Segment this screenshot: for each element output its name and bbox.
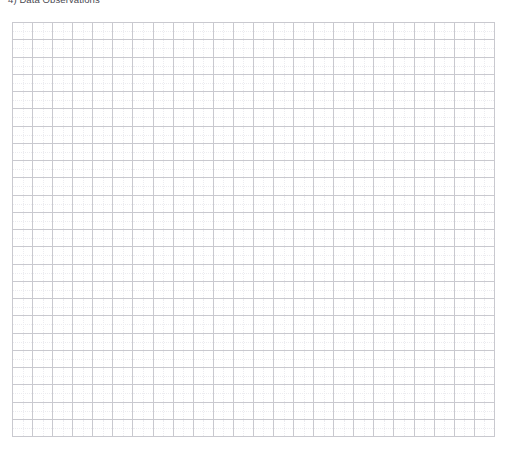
- grid-cell[interactable]: [354, 247, 374, 264]
- grid-cell[interactable]: [314, 40, 334, 57]
- grid-cell[interactable]: [434, 350, 454, 367]
- grid-cell[interactable]: [73, 281, 93, 298]
- grid-cell[interactable]: [474, 247, 494, 264]
- grid-cell[interactable]: [374, 230, 394, 247]
- grid-cell[interactable]: [53, 264, 73, 281]
- grid-cell[interactable]: [374, 316, 394, 333]
- grid-cell[interactable]: [474, 281, 494, 298]
- grid-cell[interactable]: [374, 57, 394, 74]
- grid-cell[interactable]: [454, 402, 474, 419]
- grid-cell[interactable]: [173, 178, 193, 195]
- grid-cell[interactable]: [73, 299, 93, 316]
- grid-cell[interactable]: [233, 57, 253, 74]
- grid-cell[interactable]: [193, 368, 213, 385]
- grid-cell[interactable]: [414, 368, 434, 385]
- grid-cell[interactable]: [213, 299, 233, 316]
- grid-cell[interactable]: [33, 195, 53, 212]
- grid-cell[interactable]: [414, 247, 434, 264]
- grid-cell[interactable]: [173, 126, 193, 143]
- grid-cell[interactable]: [233, 23, 253, 40]
- grid-cell[interactable]: [274, 195, 294, 212]
- grid-cell[interactable]: [173, 385, 193, 402]
- grid-cell[interactable]: [434, 212, 454, 229]
- grid-cell[interactable]: [354, 281, 374, 298]
- grid-cell[interactable]: [294, 230, 314, 247]
- grid-cell[interactable]: [374, 23, 394, 40]
- grid-cell[interactable]: [454, 333, 474, 350]
- grid-cell[interactable]: [13, 195, 33, 212]
- grid-cell[interactable]: [474, 333, 494, 350]
- grid-cell[interactable]: [434, 230, 454, 247]
- grid-cell[interactable]: [73, 23, 93, 40]
- grid-cell[interactable]: [334, 143, 354, 160]
- grid-cell[interactable]: [394, 368, 414, 385]
- grid-cell[interactable]: [233, 264, 253, 281]
- grid-cell[interactable]: [53, 299, 73, 316]
- grid-cell[interactable]: [354, 402, 374, 419]
- grid-cell[interactable]: [93, 23, 113, 40]
- grid-cell[interactable]: [354, 385, 374, 402]
- grid-cell[interactable]: [113, 40, 133, 57]
- grid-cell[interactable]: [414, 316, 434, 333]
- grid-cell[interactable]: [394, 126, 414, 143]
- grid-cell[interactable]: [73, 316, 93, 333]
- grid-cell[interactable]: [193, 178, 213, 195]
- grid-cell[interactable]: [233, 385, 253, 402]
- grid-cell[interactable]: [394, 281, 414, 298]
- grid-cell[interactable]: [394, 178, 414, 195]
- grid-cell[interactable]: [454, 247, 474, 264]
- grid-cell[interactable]: [113, 109, 133, 126]
- grid-cell[interactable]: [13, 419, 33, 436]
- grid-cell[interactable]: [93, 419, 113, 436]
- grid-cell[interactable]: [193, 385, 213, 402]
- grid-cell[interactable]: [53, 368, 73, 385]
- grid-cell[interactable]: [274, 92, 294, 109]
- grid-cell[interactable]: [354, 74, 374, 91]
- grid-cell[interactable]: [294, 195, 314, 212]
- grid-cell[interactable]: [233, 74, 253, 91]
- grid-cell[interactable]: [434, 316, 454, 333]
- grid-cell[interactable]: [474, 350, 494, 367]
- grid-cell[interactable]: [113, 333, 133, 350]
- grid-cell[interactable]: [53, 247, 73, 264]
- grid-cell[interactable]: [253, 92, 273, 109]
- grid-cell[interactable]: [233, 281, 253, 298]
- grid-cell[interactable]: [193, 333, 213, 350]
- grid-cell[interactable]: [113, 264, 133, 281]
- grid-cell[interactable]: [354, 368, 374, 385]
- grid-cell[interactable]: [454, 23, 474, 40]
- grid-cell[interactable]: [33, 264, 53, 281]
- grid-cell[interactable]: [173, 419, 193, 436]
- grid-cell[interactable]: [193, 40, 213, 57]
- grid-cell[interactable]: [213, 178, 233, 195]
- grid-cell[interactable]: [334, 74, 354, 91]
- grid-cell[interactable]: [133, 74, 153, 91]
- grid-cell[interactable]: [454, 368, 474, 385]
- grid-cell[interactable]: [374, 385, 394, 402]
- grid-cell[interactable]: [374, 92, 394, 109]
- grid-cell[interactable]: [93, 230, 113, 247]
- grid-cell[interactable]: [13, 212, 33, 229]
- grid-cell[interactable]: [153, 161, 173, 178]
- grid-cell[interactable]: [133, 350, 153, 367]
- grid-cell[interactable]: [53, 74, 73, 91]
- grid-cell[interactable]: [93, 333, 113, 350]
- grid-cell[interactable]: [213, 57, 233, 74]
- grid-cell[interactable]: [394, 230, 414, 247]
- grid-cell[interactable]: [294, 419, 314, 436]
- grid-cell[interactable]: [153, 419, 173, 436]
- grid-cell[interactable]: [93, 195, 113, 212]
- grid-cell[interactable]: [213, 143, 233, 160]
- grid-cell[interactable]: [73, 143, 93, 160]
- grid-cell[interactable]: [274, 247, 294, 264]
- grid-cell[interactable]: [33, 230, 53, 247]
- grid-cell[interactable]: [93, 109, 113, 126]
- grid-cell[interactable]: [253, 368, 273, 385]
- grid-cell[interactable]: [73, 126, 93, 143]
- grid-cell[interactable]: [274, 178, 294, 195]
- grid-cell[interactable]: [274, 23, 294, 40]
- grid-cell[interactable]: [414, 57, 434, 74]
- grid-cell[interactable]: [294, 212, 314, 229]
- grid-cell[interactable]: [314, 316, 334, 333]
- grid-cell[interactable]: [374, 161, 394, 178]
